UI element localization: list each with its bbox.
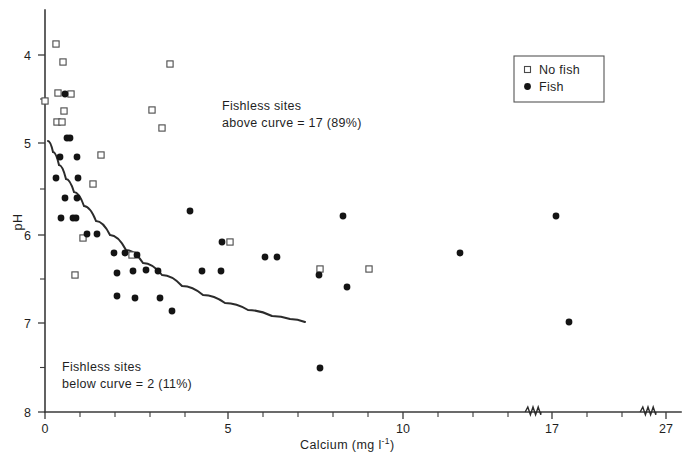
data-point-fish xyxy=(130,268,137,275)
y-axis-ticks xyxy=(38,55,45,412)
data-point-fish xyxy=(143,267,150,274)
y-tick-label: 6 xyxy=(24,229,31,243)
data-point-fish xyxy=(111,250,118,257)
data-point-no-fish xyxy=(68,91,74,97)
data-point-fish xyxy=(340,213,347,220)
x-tick-label: 0 xyxy=(42,422,49,436)
legend-marker-no-fish-icon xyxy=(525,67,531,73)
data-point-no-fish xyxy=(61,108,67,114)
data-point-fish xyxy=(67,135,74,142)
x-axis-tick-labels: 05101727 xyxy=(42,422,673,436)
axis-break-marks xyxy=(525,407,656,415)
data-point-no-fish xyxy=(159,125,165,131)
data-point-fish xyxy=(62,195,69,202)
data-point-fish xyxy=(317,365,324,372)
x-axis-ticks xyxy=(45,412,666,419)
series-no-fish-points xyxy=(42,41,372,278)
annotation-above-curve: Fishless sites above curve = 17 (89%) xyxy=(222,99,362,130)
data-point-fish xyxy=(62,91,69,98)
data-point-fish xyxy=(199,268,206,275)
data-point-no-fish xyxy=(55,90,61,96)
axis-break-zigzag-icon xyxy=(640,407,656,415)
data-point-no-fish xyxy=(72,272,78,278)
x-axis-title-main: Calcium (mg l xyxy=(300,438,382,452)
data-point-no-fish xyxy=(98,152,104,158)
data-point-no-fish xyxy=(317,266,323,272)
annotation-below-curve: Fishless sites below curve = 2 (11%) xyxy=(62,360,192,391)
data-point-fish xyxy=(316,272,323,279)
annotation-above-line1: Fishless sites xyxy=(222,99,301,113)
data-point-no-fish xyxy=(42,98,48,104)
x-axis-title-superscript: -1 xyxy=(382,436,390,446)
x-tick-label: 10 xyxy=(396,422,410,436)
x-axis-title-tail: ) xyxy=(390,438,395,452)
data-point-fish xyxy=(157,295,164,302)
data-point-fish xyxy=(169,308,176,315)
data-point-fish xyxy=(75,175,82,182)
data-point-fish xyxy=(94,231,101,238)
legend-marker-fish-icon xyxy=(524,83,531,90)
y-tick-label: 5 xyxy=(24,137,31,151)
data-point-no-fish xyxy=(149,107,155,113)
data-point-fish xyxy=(84,231,91,238)
x-tick-label: 27 xyxy=(659,422,673,436)
data-point-fish xyxy=(187,208,194,215)
legend-label-fish: Fish xyxy=(539,80,564,94)
x-tick-label: 17 xyxy=(545,422,559,436)
data-point-no-fish xyxy=(227,239,233,245)
data-point-no-fish xyxy=(60,59,66,65)
data-point-fish xyxy=(134,252,141,259)
data-point-fish xyxy=(53,175,60,182)
y-tick-label: 8 xyxy=(24,406,31,420)
annotation-below-line1: Fishless sites xyxy=(62,360,141,374)
data-point-no-fish xyxy=(366,266,372,272)
annotation-above-line2: above curve = 17 (89%) xyxy=(222,116,362,130)
chart-canvas: 45678 05101727 pH Calcium (mg l-1) Fishl… xyxy=(0,0,686,462)
data-point-fish xyxy=(122,250,129,257)
scatter-plot-figure: 45678 05101727 pH Calcium (mg l-1) Fishl… xyxy=(0,0,686,462)
data-point-fish xyxy=(566,319,573,326)
data-point-fish xyxy=(74,154,81,161)
x-axis-title: Calcium (mg l-1) xyxy=(300,436,395,452)
data-point-fish xyxy=(74,195,81,202)
data-point-fish xyxy=(114,270,121,277)
data-point-fish xyxy=(114,293,121,300)
y-axis-tick-labels: 45678 xyxy=(24,49,31,420)
data-point-fish xyxy=(218,268,225,275)
series-fish-points xyxy=(53,91,573,372)
data-point-fish xyxy=(344,284,351,291)
chart-legend: No fish Fish xyxy=(514,56,604,102)
data-point-fish xyxy=(274,254,281,261)
data-point-no-fish xyxy=(53,41,59,47)
data-point-fish xyxy=(155,268,162,275)
y-tick-label: 4 xyxy=(24,49,31,63)
data-point-no-fish xyxy=(167,61,173,67)
data-point-fish xyxy=(553,213,560,220)
data-point-fish xyxy=(57,154,64,161)
data-point-fish xyxy=(73,215,80,222)
data-point-fish xyxy=(457,250,464,257)
x-tick-label: 5 xyxy=(225,422,232,436)
legend-label-no-fish: No fish xyxy=(539,63,580,77)
data-point-no-fish xyxy=(90,181,96,187)
data-point-no-fish xyxy=(59,119,65,125)
y-axis-title: pH xyxy=(11,214,25,231)
data-point-fish xyxy=(219,239,226,246)
y-tick-label: 7 xyxy=(24,317,31,331)
data-point-fish xyxy=(132,295,139,302)
annotation-below-line2: below curve = 2 (11%) xyxy=(62,377,192,391)
data-point-fish xyxy=(262,254,269,261)
axis-break-zigzag-icon xyxy=(525,407,541,415)
data-point-fish xyxy=(58,215,65,222)
